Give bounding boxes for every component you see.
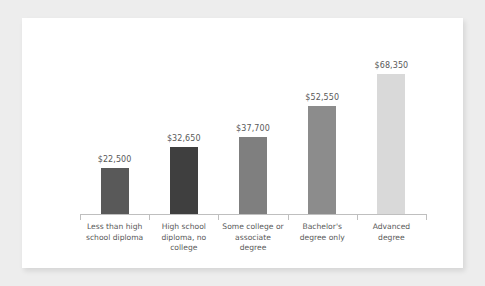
axis-tick [426, 214, 427, 220]
bar[interactable] [170, 147, 198, 214]
category-label-line: school diploma [82, 233, 147, 244]
page-background: $22,500$32,650$37,700$52,550$68,350 Less… [0, 0, 485, 286]
axis-tick [288, 214, 289, 220]
bar-value-label: $37,700 [236, 124, 270, 134]
bar-value-label: $22,500 [98, 155, 132, 165]
category-label: Less than highschool diploma [80, 222, 149, 254]
category-label: Bachelor'sdegree only [288, 222, 357, 254]
bar[interactable] [308, 106, 336, 214]
category-label-row: Less than highschool diplomaHigh schoold… [80, 222, 426, 254]
bar-column: $22,500 [80, 32, 149, 214]
category-label: High schooldiploma, nocollege [149, 222, 218, 254]
category-label-line: degree [359, 233, 424, 244]
bar-column: $68,350 [357, 32, 426, 214]
axis-tick [218, 214, 219, 220]
bar-value-label: $32,650 [167, 134, 201, 144]
bar-value-label: $68,350 [375, 61, 409, 71]
axis-tick-row [80, 214, 426, 220]
category-label-line: degree [220, 243, 285, 254]
plot-area: $22,500$32,650$37,700$52,550$68,350 [80, 32, 426, 214]
category-label-line: college [151, 243, 216, 254]
bar-series: $22,500$32,650$37,700$52,550$68,350 [80, 32, 426, 214]
category-label-line: diploma, no [151, 233, 216, 244]
category-label-line: degree only [290, 233, 355, 244]
category-label: Some college orassociatedegree [218, 222, 287, 254]
category-label-line: Some college or [220, 222, 285, 233]
category-label-line: associate [220, 233, 285, 244]
axis-tick [80, 214, 81, 220]
bar[interactable] [377, 74, 405, 214]
axis-tick [357, 214, 358, 220]
category-label: Advanceddegree [357, 222, 426, 254]
bar[interactable] [101, 168, 129, 214]
category-label-line: Less than high [82, 222, 147, 233]
bar-column: $37,700 [218, 32, 287, 214]
category-label-line: Advanced [359, 222, 424, 233]
category-label-line: High school [151, 222, 216, 233]
bar-column: $32,650 [149, 32, 218, 214]
bar[interactable] [239, 137, 267, 214]
chart-card: $22,500$32,650$37,700$52,550$68,350 Less… [22, 18, 463, 268]
bar-value-label: $52,550 [305, 93, 339, 103]
bar-column: $52,550 [288, 32, 357, 214]
axis-tick [149, 214, 150, 220]
category-label-line: Bachelor's [290, 222, 355, 233]
